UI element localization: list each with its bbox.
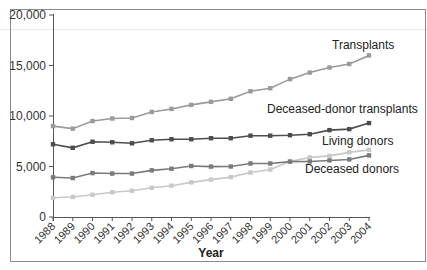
data-point [71, 126, 75, 130]
data-point [327, 154, 331, 158]
data-point [288, 159, 292, 163]
x-tick-label: 2004 [348, 220, 374, 246]
data-point [110, 190, 114, 194]
data-point [51, 175, 55, 179]
data-point [347, 62, 351, 66]
line-chart: 05,00010,00015,00020,000 198819891990199… [0, 0, 427, 270]
x-tick-label: 1998 [229, 220, 255, 246]
x-tick-label: 1991 [91, 220, 117, 246]
data-point [51, 196, 55, 200]
data-point [130, 189, 134, 193]
y-tick-label: 0 [39, 210, 46, 224]
data-point [189, 103, 193, 107]
series-label: Living donors [322, 134, 393, 148]
x-tick-label: 1990 [71, 220, 97, 246]
x-tick-label: 1997 [209, 220, 235, 246]
x-axis: 1988198919901991199219931994199519961997… [32, 217, 374, 246]
data-point [308, 155, 312, 159]
data-point [150, 110, 154, 114]
data-point [327, 65, 331, 69]
data-point [51, 124, 55, 128]
data-point [169, 137, 173, 141]
data-point [347, 157, 351, 161]
data-point [347, 150, 351, 154]
data-point [248, 133, 252, 137]
series-label: Deceased-donor transplants [267, 102, 418, 116]
data-point [268, 167, 272, 171]
x-tick-label: 1989 [51, 220, 77, 246]
data-point [90, 193, 94, 197]
data-point [248, 89, 252, 93]
x-tick-label: 2000 [269, 220, 295, 246]
data-point [51, 142, 55, 146]
x-axis-title: Year [198, 246, 224, 260]
data-point [189, 164, 193, 168]
data-point [288, 133, 292, 137]
data-point [90, 140, 94, 144]
data-point [327, 128, 331, 132]
y-tick-label: 10,000 [9, 109, 46, 123]
data-point [130, 171, 134, 175]
data-point [150, 138, 154, 142]
data-point [209, 100, 213, 104]
data-point [229, 97, 233, 101]
data-point [130, 141, 134, 145]
data-point [110, 171, 114, 175]
series-layer [51, 53, 371, 200]
y-axis: 05,00010,00015,00020,000 [9, 8, 53, 224]
x-tick-label: 1996 [190, 220, 216, 246]
series-labels: TransplantsDeceased-donor transplantsLiv… [267, 38, 418, 176]
data-point [367, 153, 371, 157]
data-point [367, 121, 371, 125]
y-tick-label: 20,000 [9, 8, 46, 22]
data-point [150, 186, 154, 190]
x-tick-label: 2003 [328, 220, 354, 246]
data-point [268, 86, 272, 90]
data-point [110, 116, 114, 120]
data-point [150, 168, 154, 172]
data-point [169, 167, 173, 171]
data-point [110, 140, 114, 144]
data-point [71, 195, 75, 199]
data-point [229, 136, 233, 140]
data-point [347, 127, 351, 131]
data-point [248, 170, 252, 174]
y-tick-label: 5,000 [16, 160, 46, 174]
x-tick-label: 2002 [308, 220, 334, 246]
data-point [209, 164, 213, 168]
series-transplants [51, 53, 371, 131]
data-point [367, 53, 371, 57]
data-point [71, 176, 75, 180]
x-tick-label: 1988 [32, 220, 58, 246]
data-point [130, 116, 134, 120]
x-tick-label: 1994 [150, 220, 176, 246]
data-point [169, 183, 173, 187]
data-point [71, 146, 75, 150]
x-tick-label: 1992 [111, 220, 137, 246]
data-point [209, 177, 213, 181]
data-point [189, 180, 193, 184]
y-tick-label: 15,000 [9, 59, 46, 73]
data-point [229, 164, 233, 168]
series-label: Transplants [332, 38, 394, 52]
data-point [169, 107, 173, 111]
x-tick-label: 1999 [249, 220, 275, 246]
data-point [90, 171, 94, 175]
data-point [209, 136, 213, 140]
data-point [229, 175, 233, 179]
x-tick-label: 1993 [130, 220, 156, 246]
series-label: Deceased donors [305, 162, 399, 176]
data-point [189, 137, 193, 141]
data-point [268, 161, 272, 165]
data-point [367, 148, 371, 152]
data-point [308, 70, 312, 74]
data-point [90, 119, 94, 123]
x-tick-label: 1995 [170, 220, 196, 246]
data-point [308, 132, 312, 136]
data-point [288, 77, 292, 81]
data-point [248, 161, 252, 165]
x-tick-label: 2001 [288, 220, 314, 246]
data-point [268, 133, 272, 137]
